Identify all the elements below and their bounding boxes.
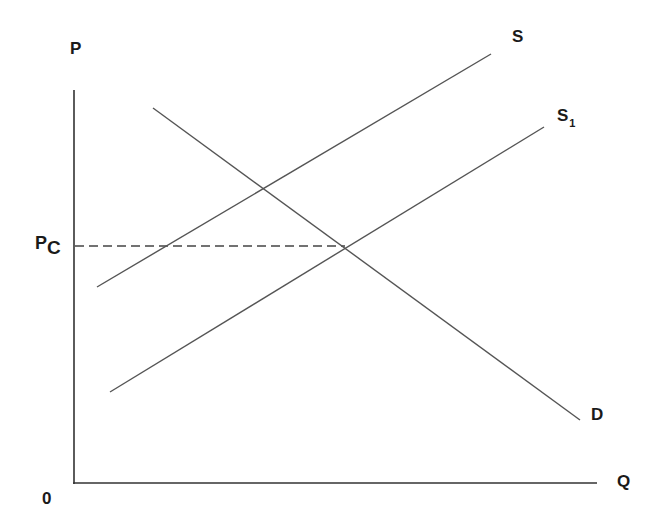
origin-label: 0: [42, 490, 51, 507]
demand-d-label: D: [591, 406, 603, 423]
demand-curve-d: [153, 108, 580, 420]
supply-s1-label: S1: [557, 107, 575, 124]
x-axis-label: Q: [617, 473, 630, 490]
price-pc-label: PC: [35, 233, 61, 252]
price-pc-label-sub: C: [47, 237, 61, 258]
supply-curve-s: [97, 54, 491, 287]
supply-s-label: S: [512, 28, 523, 45]
supply-curve-s1: [110, 127, 544, 392]
y-axis-label: P: [70, 40, 81, 57]
supply-s1-label-sub: 1: [569, 117, 575, 129]
price-pc-label-main: P: [35, 233, 47, 253]
supply-s1-label-main: S: [557, 106, 568, 125]
supply-demand-diagram: [0, 0, 663, 532]
